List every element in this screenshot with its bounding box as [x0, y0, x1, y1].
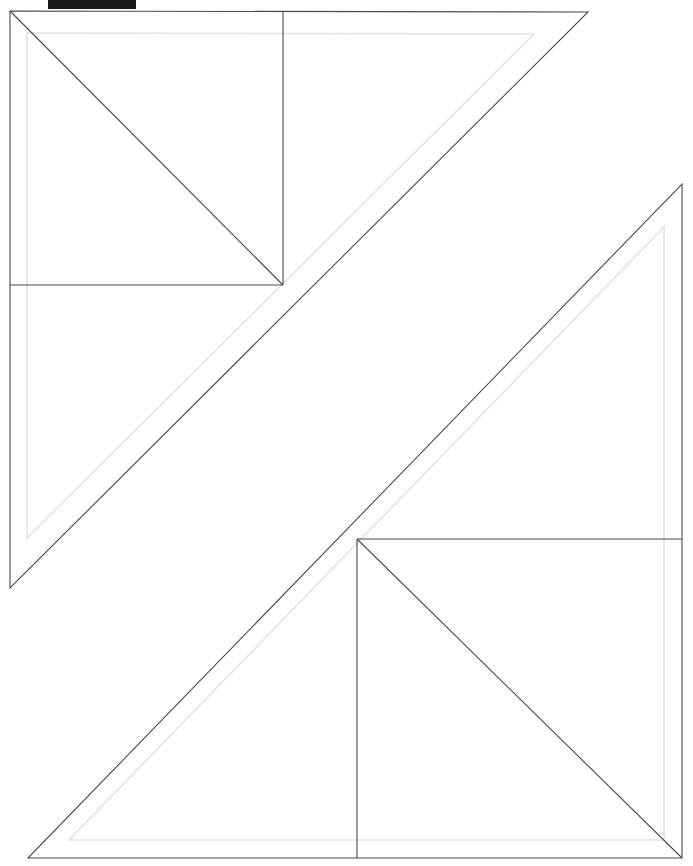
lower-right-square-diagonal	[357, 539, 682, 858]
redacted-header-text: ████████	[48, 0, 136, 9]
drawing-canvas: ████████	[0, 0, 693, 866]
geometric-figure	[0, 0, 693, 866]
inset-guide-lines	[27, 33, 664, 840]
main-outline-lines	[10, 11, 682, 858]
redacted-header-bar: ████████	[48, 0, 136, 9]
lower-right-inner-triangle	[69, 227, 664, 840]
upper-left-square-diagonal	[10, 11, 283, 285]
